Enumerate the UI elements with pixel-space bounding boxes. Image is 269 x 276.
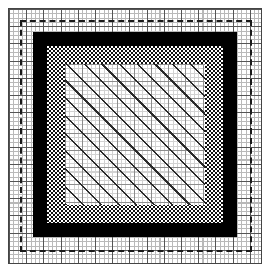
- diagonal-hatch-panel: [65, 64, 205, 205]
- pattern-figure: Concentric rectangular pattern diagram: [0, 0, 269, 276]
- figure-title: Concentric rectangular pattern diagram: [0, 0, 1, 1]
